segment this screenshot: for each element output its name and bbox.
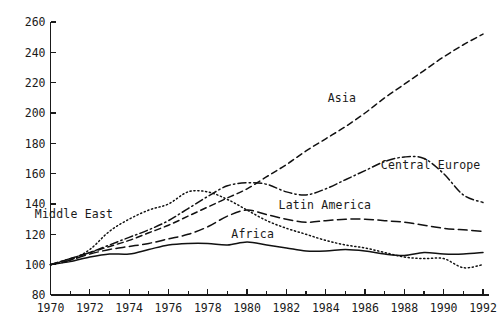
series-label-africa: Africa — [231, 227, 274, 241]
x-tick-label: 1970 — [37, 301, 65, 315]
y-tick-label: 100 — [25, 258, 46, 272]
y-tick-label: 260 — [25, 15, 46, 29]
series-label-latin-america: Latin America — [279, 198, 372, 212]
x-tick-label: 1976 — [155, 301, 183, 315]
x-tick-label: 1974 — [115, 301, 143, 315]
y-tick-label: 240 — [25, 46, 46, 60]
x-tick-label: 1980 — [233, 301, 261, 315]
x-tick-label: 1990 — [430, 301, 458, 315]
series-label-asia: Asia — [328, 91, 357, 105]
y-tick-label: 200 — [25, 106, 46, 120]
x-tick-label: 1986 — [351, 301, 379, 315]
y-tick-label: 180 — [25, 137, 46, 151]
x-tick-label: 1978 — [194, 301, 222, 315]
y-tick-label: 120 — [25, 228, 46, 242]
x-tick-label: 1984 — [312, 301, 340, 315]
x-tick-label: 1992 — [469, 301, 497, 315]
y-tick-label: 220 — [25, 76, 46, 90]
series-label-central-europe: Central Europe — [381, 158, 481, 172]
x-tick-label: 1982 — [273, 301, 301, 315]
chart-canvas: 80100120140160180200220240260 1970197219… — [0, 0, 498, 324]
x-tick-label: 1988 — [391, 301, 419, 315]
line-chart: 80100120140160180200220240260 1970197219… — [0, 0, 498, 324]
x-tick-label: 1972 — [76, 301, 104, 315]
series-label-middle-east: Middle East — [35, 207, 113, 221]
y-tick-label: 160 — [25, 167, 46, 181]
